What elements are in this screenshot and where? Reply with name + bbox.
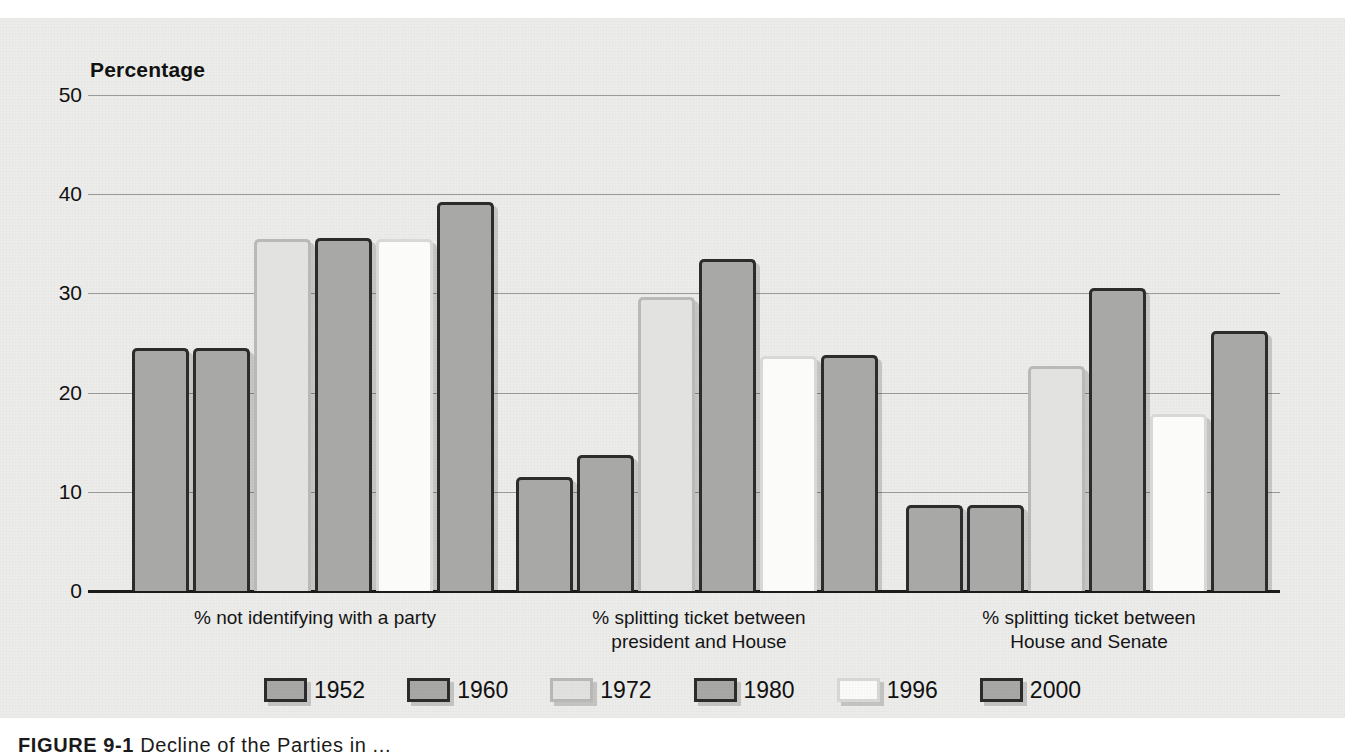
plot-area: 01020304050 <box>88 95 1293 591</box>
bar[interactable] <box>132 348 189 591</box>
legend-swatch <box>407 678 450 702</box>
legend-swatch-body <box>407 678 450 702</box>
bar-body <box>1211 331 1268 591</box>
bar-body <box>906 505 963 591</box>
legend-swatch-body <box>264 678 307 702</box>
legend-item[interactable]: 1996 <box>837 678 938 702</box>
legend-swatch <box>980 678 1023 702</box>
bar[interactable] <box>699 259 756 591</box>
y-axis-tick-label: 50 <box>22 84 82 105</box>
y-axis-tick-label: 30 <box>22 282 82 303</box>
chart-legend: 195219601972198019962000 <box>0 678 1345 702</box>
bar[interactable] <box>1150 414 1207 591</box>
bar-body <box>132 348 189 591</box>
y-axis-title: Percentage <box>90 58 205 82</box>
legend-label: 1960 <box>457 679 508 702</box>
bar-body <box>760 356 817 591</box>
bar-group <box>132 95 498 591</box>
y-axis-tick-label: 0 <box>22 580 82 601</box>
bar[interactable] <box>577 455 634 591</box>
plot-inner: 01020304050 <box>88 95 1293 591</box>
legend-label: 1996 <box>887 679 938 702</box>
legend-swatch-body <box>694 678 737 702</box>
legend-item[interactable]: 2000 <box>980 678 1081 702</box>
bar[interactable] <box>1211 331 1268 591</box>
legend-label: 1952 <box>314 679 365 702</box>
bar[interactable] <box>193 348 250 591</box>
bar[interactable] <box>254 239 311 591</box>
bar[interactable] <box>967 505 1024 591</box>
bar-body <box>1150 414 1207 591</box>
bar-body <box>638 297 695 591</box>
legend-swatch-body <box>550 678 593 702</box>
bar-body <box>193 348 250 591</box>
bar[interactable] <box>638 297 695 591</box>
bar[interactable] <box>821 355 878 591</box>
legend-swatch-body <box>980 678 1023 702</box>
figure-panel: Percentage 01020304050 % not identifying… <box>0 18 1345 718</box>
figure-caption: FIGURE 9-1 Decline of the Parties in ... <box>18 734 391 754</box>
bar-body <box>967 505 1024 591</box>
bar[interactable] <box>516 477 573 591</box>
bar-body <box>516 477 573 591</box>
bar-body <box>437 202 494 591</box>
bar-group <box>516 95 882 591</box>
legend-label: 1972 <box>600 679 651 702</box>
legend-swatch <box>264 678 307 702</box>
legend-swatch <box>550 678 593 702</box>
bar-body <box>315 238 372 591</box>
legend-swatch <box>837 678 880 702</box>
bar-group <box>906 95 1272 591</box>
bar[interactable] <box>315 238 372 591</box>
bar-body <box>821 355 878 591</box>
bar-body <box>1089 288 1146 591</box>
y-axis-tick-label: 40 <box>22 183 82 204</box>
legend-swatch <box>694 678 737 702</box>
legend-swatch-body <box>837 678 880 702</box>
bar-body <box>254 239 311 591</box>
bar[interactable] <box>1089 288 1146 591</box>
bar-body <box>1028 366 1085 591</box>
figure-caption-text: Decline of the Parties in ... <box>140 734 391 754</box>
bar[interactable] <box>906 505 963 591</box>
legend-item[interactable]: 1952 <box>264 678 365 702</box>
bar-body <box>699 259 756 591</box>
figure-caption-label: FIGURE 9-1 <box>18 734 134 754</box>
x-axis-category-label: % splitting ticket between House and Sen… <box>889 606 1289 655</box>
x-axis-category-label: % splitting ticket between president and… <box>499 606 899 655</box>
bar[interactable] <box>1028 366 1085 591</box>
bar[interactable] <box>760 356 817 591</box>
x-axis-category-label: % not identifying with a party <box>115 606 515 630</box>
y-axis-tick-label: 20 <box>22 382 82 403</box>
bar[interactable] <box>376 239 433 591</box>
legend-label: 2000 <box>1030 679 1081 702</box>
bar-body <box>577 455 634 591</box>
y-axis-tick-label: 10 <box>22 481 82 502</box>
legend-label: 1980 <box>744 679 795 702</box>
legend-item[interactable]: 1960 <box>407 678 508 702</box>
legend-item[interactable]: 1980 <box>694 678 795 702</box>
legend-item[interactable]: 1972 <box>550 678 651 702</box>
bar[interactable] <box>437 202 494 591</box>
bar-body <box>376 239 433 591</box>
